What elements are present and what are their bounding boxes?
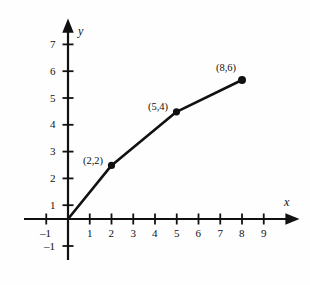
- data-point-marker: [238, 76, 246, 84]
- coordinate-plane-figure: y x –1 1 2 3 4 5 6 7 8 9 7 6 5 4 3 2 1 –…: [0, 0, 310, 285]
- x-tick-label-6: 6: [196, 228, 202, 239]
- data-point-marker: [108, 162, 115, 169]
- y-tick-label-6: 6: [50, 66, 56, 77]
- x-tick-label-7: 7: [218, 228, 224, 239]
- y-tick-label-5: 5: [50, 93, 56, 104]
- x-tick-label-4: 4: [152, 228, 158, 239]
- x-tick-label-5: 5: [174, 228, 180, 239]
- y-tick-label--1: –1: [44, 241, 55, 252]
- y-tick-label-3: 3: [50, 146, 56, 157]
- y-tick-label-2: 2: [50, 173, 56, 184]
- x-tick-label-9: 9: [261, 228, 267, 239]
- point-label-5-4: (5,4): [148, 102, 168, 113]
- x-tick-label-2: 2: [109, 228, 115, 239]
- point-label-2-2: (2,2): [83, 156, 103, 167]
- y-tick-label-1: 1: [50, 200, 56, 211]
- y-tick-label-4: 4: [50, 119, 56, 130]
- x-axis-label: x: [284, 196, 289, 208]
- x-tick-label--1: –1: [40, 228, 51, 239]
- point-label-8-6: (8,6): [216, 63, 236, 74]
- x-tick-label-1: 1: [87, 228, 93, 239]
- y-tick-label-7: 7: [50, 39, 56, 50]
- data-point-marker: [173, 108, 180, 115]
- y-axis-label: y: [78, 25, 83, 37]
- x-tick-label-8: 8: [239, 228, 245, 239]
- x-tick-label-3: 3: [131, 228, 137, 239]
